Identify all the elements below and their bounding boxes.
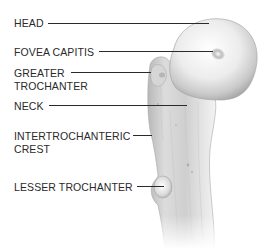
label-head: HEAD xyxy=(14,17,44,29)
femur-illustration xyxy=(0,0,273,249)
lesser-trochanter-bump xyxy=(154,176,172,198)
label-intertrochanteric-crest-line1: INTERTROCHANTERIC xyxy=(14,130,130,142)
label-fovea-capitis: FOVEA CAPITIS xyxy=(14,46,94,58)
femur-diagram: HEAD FOVEA CAPITIS GREATER TROCHANTER NE… xyxy=(0,0,273,249)
label-lesser-trochanter: LESSER TROCHANTER xyxy=(14,181,133,193)
label-greater-trochanter-line1: GREATER xyxy=(14,67,65,79)
leader-line-lesser-trochanter xyxy=(137,186,164,187)
leader-line-neck xyxy=(49,105,187,106)
label-neck: NECK xyxy=(14,100,44,112)
label-greater-trochanter-line2: TROCHANTER xyxy=(14,80,88,92)
femoral-head xyxy=(170,19,257,100)
leader-line-head xyxy=(48,23,209,24)
leader-line-greater-trochanter xyxy=(71,72,151,73)
leader-line-fovea-capitis xyxy=(99,51,213,52)
leader-line-intertrochanteric-crest xyxy=(133,135,152,136)
label-intertrochanteric-crest-line2: CREST xyxy=(14,143,50,155)
